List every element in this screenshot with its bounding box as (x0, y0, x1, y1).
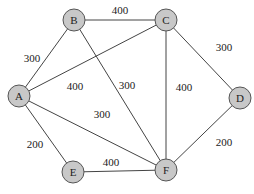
node-label: A (15, 90, 23, 102)
edge-weight-C-D: 300 (216, 41, 233, 53)
edge-weight-D-F: 200 (216, 136, 233, 148)
node-E: E (62, 161, 84, 183)
edge-A-F (19, 96, 166, 170)
edge-A-E (19, 96, 73, 172)
nodes-layer: ABCDEF (8, 9, 251, 183)
node-C: C (155, 9, 177, 31)
node-B: B (63, 9, 85, 31)
node-A: A (8, 85, 30, 107)
edge-A-C (19, 20, 166, 96)
node-F: F (155, 159, 177, 181)
edge-B-F (74, 20, 166, 170)
weight-labels-layer: 400300400300400300300200400200 (24, 4, 233, 168)
edge-E-F (73, 170, 166, 172)
edge-weight-A-C: 400 (67, 80, 84, 92)
node-label: F (163, 164, 169, 176)
edge-weight-B-F: 300 (119, 79, 136, 91)
graph-diagram: 400300400300400300300200400200 ABCDEF (0, 0, 254, 194)
edge-weight-A-B: 300 (24, 52, 41, 64)
node-label: E (70, 166, 77, 178)
edge-weight-A-E: 200 (27, 138, 44, 150)
node-D: D (229, 87, 251, 109)
edges-layer (19, 20, 240, 172)
node-label: C (162, 14, 169, 26)
edge-weight-E-F: 400 (103, 156, 120, 168)
edge-weight-B-C: 400 (112, 4, 129, 16)
edge-D-F (166, 98, 240, 170)
edge-weight-A-F: 300 (94, 108, 111, 120)
node-label: B (70, 14, 77, 26)
node-label: D (236, 92, 244, 104)
edge-weight-C-F: 400 (176, 81, 193, 93)
